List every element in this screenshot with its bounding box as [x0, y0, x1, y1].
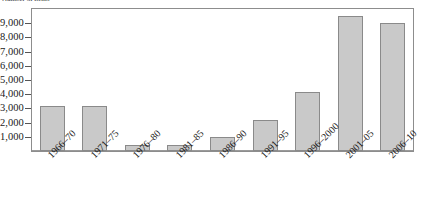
y-axis-tick-label: 4,000: [0, 89, 23, 100]
bar: [338, 16, 363, 151]
y-axis-tick-label: 3,000: [0, 103, 23, 114]
y-axis-tick: [25, 37, 31, 38]
y-axis-tick: [25, 66, 31, 67]
bars-group: [31, 8, 414, 152]
bar: [380, 23, 405, 152]
bar-chart: Number of items 1966–701971–751976–80198…: [0, 0, 422, 209]
y-axis-tick-label: 8,000: [0, 32, 23, 43]
y-axis-tick: [25, 23, 31, 24]
y-axis-tick-label: 9,000: [0, 18, 23, 29]
cut-off-caption: Number of items: [2, 0, 152, 4]
caption-text: Number of items: [2, 0, 49, 3]
y-axis-tick: [25, 123, 31, 124]
y-axis-tick: [25, 80, 31, 81]
y-axis-tick: [25, 108, 31, 109]
y-axis-tick: [25, 137, 31, 138]
y-axis-tick-label: 5,000: [0, 75, 23, 86]
y-axis-tick: [25, 52, 31, 53]
y-axis-tick-label: 6,000: [0, 61, 23, 72]
x-axis-labels: 1966–701971–751976–801981–851986–901991–…: [31, 153, 414, 209]
y-axis-tick-label: 1,000: [0, 132, 23, 143]
y-axis-tick-label: 2,000: [0, 118, 23, 129]
y-axis-tick: [25, 94, 31, 95]
y-axis-tick-label: 7,000: [0, 47, 23, 58]
